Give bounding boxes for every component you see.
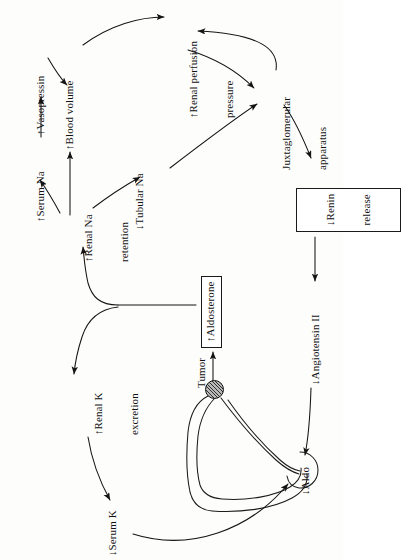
node-renal-perfusion-pressure-line2: pressure <box>223 41 235 118</box>
edge-renal-k-to-serum-k <box>88 437 110 500</box>
node-renal-perfusion-pressure-line1: ↑Renal perfusion <box>187 41 199 118</box>
kidney-medial-fold-upper <box>221 398 299 474</box>
node-tumor: Tumor <box>196 358 208 388</box>
node-vasopressin: ↑Vasopressin <box>35 76 47 135</box>
node-renal-k-excretion-line1: ↑Renal K <box>92 392 104 435</box>
node-renin-release: ↓Renin release <box>296 188 401 232</box>
edge-serum-k-to-aldo <box>133 484 288 540</box>
node-serum-na: ↑Serum Na <box>35 171 47 222</box>
node-juxtaglomerular-apparatus: Juxtaglomerular apparatus <box>256 97 352 170</box>
node-renin-release-line1: ↓Renin <box>324 194 336 226</box>
node-aldosterone: ↑Aldosterone <box>201 276 222 348</box>
node-renal-perfusion-pressure: ↑Renal perfusion pressure <box>163 41 259 118</box>
node-renal-k-excretion-line2: excretion <box>128 392 140 435</box>
node-blood-volume: ↑Blood volume <box>64 81 76 150</box>
kidney-medial-fold-lower <box>228 400 300 471</box>
node-renal-k-excretion: ↑Renal K excretion <box>68 392 164 435</box>
node-serum-k: ↓Serum K <box>107 510 119 556</box>
edge-bus-to-renal-k-excretion <box>74 307 118 374</box>
node-jga-line1: Juxtaglomerular <box>280 97 292 170</box>
kidney-outer-contour <box>187 396 307 511</box>
node-aldo-gland: ↓Aldo <box>300 467 312 495</box>
node-angiotensin-ii: ↓Angiotensin II <box>310 314 322 385</box>
node-jga-line2: apparatus <box>316 97 328 170</box>
edge-angiotensin-to-aldo <box>305 388 311 455</box>
edge-blood-volume-to-renal-perfusion <box>83 17 164 45</box>
node-renal-na-retention-line1: ↑Renal Na <box>82 214 94 262</box>
tumor-nodule <box>205 380 224 399</box>
node-tubular-na: ↓Tubular Na <box>134 173 146 230</box>
node-renal-na-retention-line2: retention <box>118 214 130 262</box>
node-renin-release-line2: release <box>360 194 372 226</box>
kidney-inner-contour <box>197 398 301 499</box>
